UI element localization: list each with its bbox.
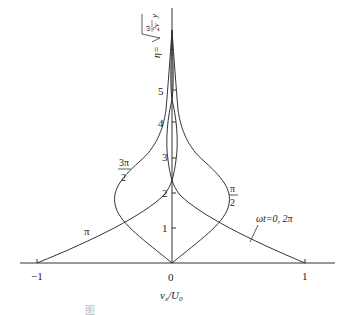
label-wt-0-2pi: ωt=0, 2π: [256, 213, 294, 224]
tick-y-3: 3: [162, 151, 168, 163]
tick-y-5: 5: [158, 85, 164, 97]
velocity-profile-chart: −1 0 1 1 2 3 4 5 ωt=0, 2π π 2 π 3π 2 vx/…: [0, 0, 351, 315]
x-axis-label: vx/U0: [160, 289, 183, 303]
svg-text:3π: 3π: [119, 157, 129, 168]
curve-pi: [37, 30, 177, 263]
label-pi-half: π 2: [229, 183, 238, 208]
tick-x-neg1: −1: [31, 270, 43, 282]
tick-y-4: 4: [158, 117, 164, 129]
svg-text:π: π: [230, 183, 235, 194]
svg-text:vx/U0: vx/U0: [160, 289, 183, 303]
svg-text:η=: η=: [151, 46, 162, 58]
y-axis-label: η= ω 2ν y: [142, 14, 162, 58]
svg-text:y: y: [149, 14, 159, 19]
curve-wt-0-2pi: [167, 30, 305, 263]
tick-y-2: 2: [162, 187, 168, 199]
tick-x-0: 0: [168, 271, 174, 283]
svg-text:2: 2: [121, 172, 126, 183]
svg-text:ω: ω: [143, 25, 152, 31]
svg-text:2: 2: [230, 197, 235, 208]
tick-y-1: 1: [162, 222, 168, 234]
tick-x-1: 1: [302, 270, 308, 282]
curve-pi-half: [172, 30, 229, 263]
leader-line: [250, 225, 258, 242]
label-pi: π: [84, 225, 90, 237]
figure-caption: 图: [85, 305, 95, 315]
svg-text:2ν: 2ν: [152, 23, 161, 31]
label-3pi-half: 3π 2: [118, 157, 131, 183]
